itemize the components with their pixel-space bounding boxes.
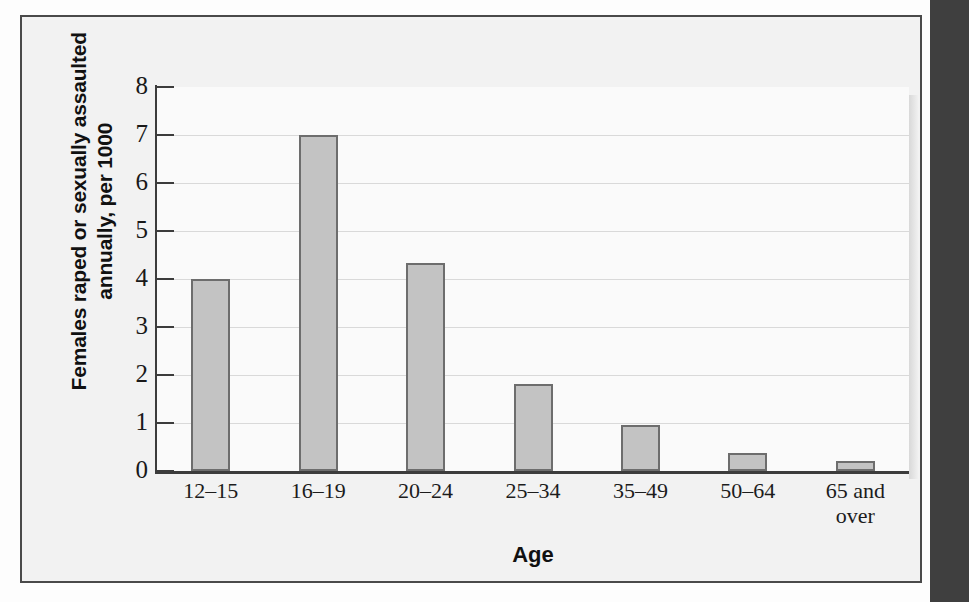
bar <box>836 461 875 471</box>
y-axis-title-line: Females raped or sexually assaulted <box>66 1 92 421</box>
y-axis-title: Females raped or sexually assaultedannua… <box>66 1 119 421</box>
gridline <box>157 231 909 232</box>
bar <box>514 384 553 471</box>
plot-panel-shadow <box>909 95 918 479</box>
y-tick-mark <box>157 374 174 376</box>
gridline <box>157 327 909 328</box>
x-tick-label-line: over <box>802 504 909 529</box>
x-tick-label-line: 50–64 <box>694 479 801 504</box>
gridline <box>157 375 909 376</box>
x-tick-label: 35–49 <box>587 479 694 504</box>
y-tick-mark <box>157 326 174 328</box>
y-tick-mark <box>157 86 174 88</box>
x-tick-label: 16–19 <box>264 479 371 504</box>
figure-frame: 876543210 12–1516–1920–2425–3435–4950–64… <box>20 15 922 583</box>
gridline <box>157 183 909 184</box>
x-tick-label-line: 12–15 <box>157 479 264 504</box>
y-tick-mark <box>157 422 174 424</box>
x-tick-label-line: 65 and <box>802 479 909 504</box>
y-tick-mark <box>157 182 174 184</box>
x-tick-label: 12–15 <box>157 479 264 504</box>
x-axis-line <box>155 471 911 474</box>
bar <box>728 453 767 471</box>
x-tick-label-line: 25–34 <box>479 479 586 504</box>
x-tick-label: 20–24 <box>372 479 479 504</box>
y-tick-label: 0 <box>108 457 148 482</box>
plot-area-wrapper <box>157 87 909 471</box>
x-tick-label: 50–64 <box>694 479 801 504</box>
y-tick-mark <box>157 470 174 472</box>
x-tick-label: 25–34 <box>479 479 586 504</box>
x-axis-title: Age <box>157 542 909 568</box>
gridline <box>157 135 909 136</box>
gridline <box>157 279 909 280</box>
bar <box>406 263 445 471</box>
x-tick-label-line: 16–19 <box>264 479 371 504</box>
y-tick-mark <box>157 134 174 136</box>
y-tick-mark <box>157 230 174 232</box>
x-tick-label: 65 andover <box>802 479 909 528</box>
bar <box>621 425 660 471</box>
y-tick-mark <box>157 278 174 280</box>
page-gutter-band <box>930 0 969 602</box>
bar <box>191 279 230 471</box>
y-axis-title-line: annually, per 1000 <box>92 1 118 421</box>
bar <box>299 135 338 471</box>
x-tick-label-line: 35–49 <box>587 479 694 504</box>
x-tick-label-line: 20–24 <box>372 479 479 504</box>
